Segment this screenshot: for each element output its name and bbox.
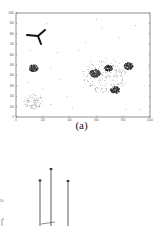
tri-arm-glyph (27, 30, 45, 44)
scatter-plot-a: 0100200300400500600700800900100002004006… (0, 0, 163, 130)
axis-fragment (2, 219, 4, 226)
y-tick-label: 600 (10, 53, 15, 57)
caption-a: (a) (0, 119, 163, 131)
y-tick-label: 500 (10, 63, 15, 67)
y-tick-label: 100 (10, 105, 15, 109)
y-tick-label: 400 (10, 73, 15, 77)
y-tick-label: 700 (10, 42, 15, 46)
y-tick-label: 300 (10, 84, 15, 88)
y-tick-label: 900 (10, 21, 15, 25)
y-tick-label: 200 (10, 94, 15, 98)
stems (39, 168, 70, 226)
baseline-segment (41, 222, 55, 224)
y-tick-label: 10² (0, 199, 4, 203)
y-tick-label: 1000 (8, 11, 14, 15)
y-tick-label: 800 (10, 32, 15, 36)
stem-plot-b: 10² (0, 135, 163, 226)
